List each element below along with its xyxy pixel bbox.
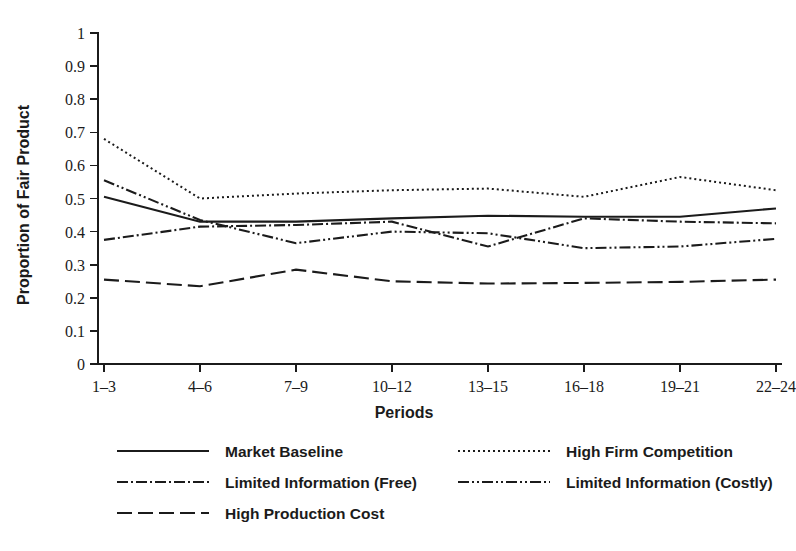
series-line-4 [104, 270, 776, 287]
y-tick-label: 0.5 [65, 191, 85, 208]
series-layer [104, 139, 776, 286]
y-tick-label: 0.8 [65, 91, 85, 108]
series-line-3 [104, 180, 776, 248]
y-tick-label: 0.4 [65, 224, 85, 241]
x-tick-label: 13–15 [468, 378, 508, 395]
y-tick-label: 0.6 [65, 157, 85, 174]
x-tick-label: 22–24 [756, 378, 796, 395]
y-tick-label: 0.7 [65, 124, 85, 141]
y-tick-label: 0.9 [65, 58, 85, 75]
y-tick-label: 1 [77, 25, 85, 42]
y-tick-label: 0.2 [65, 290, 85, 307]
y-tick-label: 0.1 [65, 323, 85, 340]
y-axis-title: Proportion of Fair Product [15, 104, 32, 305]
x-axis: 1–34–67–910–1213–1516–1819–2122–24 [92, 364, 796, 395]
x-tick-label: 19–21 [660, 378, 700, 395]
legend-label: Limited Information (Costly) [566, 474, 773, 491]
line-chart: 00.10.20.30.40.50.60.70.80.91 1–34–67–91… [0, 0, 796, 551]
legend-label: Market Baseline [225, 443, 343, 460]
y-tick-label: 0 [77, 356, 85, 373]
y-axis: 00.10.20.30.40.50.60.70.80.91 [65, 25, 98, 373]
series-line-1 [104, 139, 776, 199]
legend-label: High Firm Competition [566, 443, 733, 460]
series-line-0 [104, 197, 776, 222]
x-tick-label: 10–12 [372, 378, 412, 395]
y-tick-label: 0.3 [65, 257, 85, 274]
legend-label: High Production Cost [225, 505, 384, 522]
legend-label: Limited Information (Free) [225, 474, 417, 491]
x-tick-label: 4–6 [188, 378, 212, 395]
x-tick-label: 7–9 [284, 378, 308, 395]
legend: Market BaselineHigh Firm CompetitionLimi… [117, 443, 773, 522]
x-tick-label: 1–3 [92, 378, 116, 395]
x-tick-label: 16–18 [564, 378, 604, 395]
chart-container: 00.10.20.30.40.50.60.70.80.91 1–34–67–91… [0, 0, 796, 551]
x-axis-title: Periods [375, 404, 434, 421]
